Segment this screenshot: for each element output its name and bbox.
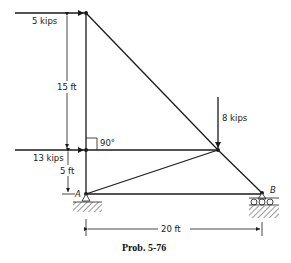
joint-top	[84, 11, 88, 15]
member-right-diagonal	[218, 150, 262, 193]
dimension-20ft-label: 20 ft	[161, 224, 181, 234]
pin-support-a	[82, 194, 90, 201]
load-13kips-label: 13 kips	[33, 153, 64, 163]
ground-hatch-b	[249, 206, 279, 218]
ground-hatch-a	[73, 202, 102, 212]
load-8kips-label: 8 kips	[222, 113, 248, 123]
right-angle-marker	[86, 138, 97, 150]
angle-label: 90°	[100, 138, 115, 148]
truss-members	[86, 13, 262, 194]
member-top-diagonal	[86, 13, 218, 150]
figure-caption: Prob. 5-76	[122, 242, 166, 253]
joint-right	[216, 148, 220, 152]
truss-diagram: 90° 5 kips 13 kips 8 kips 15 ft 5 ft A B…	[0, 0, 291, 263]
dimension-15ft-label: 15 ft	[57, 82, 77, 92]
dimension-5ft-label: 5 ft	[60, 166, 75, 176]
load-5kips-label: 5 kips	[32, 16, 58, 26]
joint-middle-left	[84, 148, 88, 152]
member-lower-diagonal	[86, 150, 218, 194]
support-b-label: B	[270, 185, 276, 195]
support-a-label: A	[74, 189, 81, 199]
